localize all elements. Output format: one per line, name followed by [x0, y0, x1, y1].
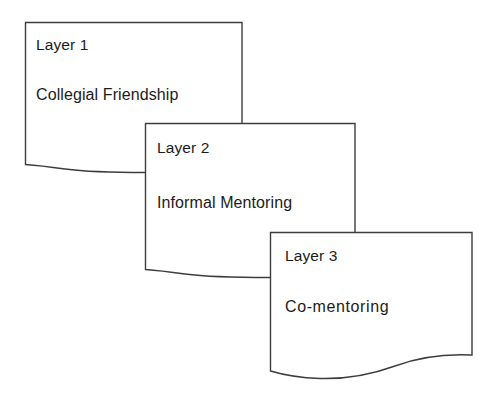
layer-2-title: Layer 2 — [157, 140, 209, 156]
layer-3-title: Layer 3 — [285, 248, 337, 264]
layered-mentoring-diagram: Layer 1 Collegial Friendship Layer 2 Inf… — [0, 0, 494, 398]
layer-3-description: Co-mentoring — [285, 299, 389, 315]
layer-1-title: Layer 1 — [36, 37, 88, 53]
layer-2-description: Informal Mentoring — [157, 195, 292, 211]
layer-1-description: Collegial Friendship — [36, 87, 179, 103]
